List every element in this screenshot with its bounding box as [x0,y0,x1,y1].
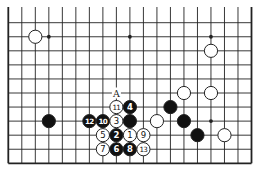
white-stone: 3 [110,115,123,128]
white-stone [204,86,217,99]
move-number-label: 10 [98,117,107,126]
move-number-label: 8 [127,144,133,154]
move-number-label: 12 [85,117,94,126]
point-marker-label: A [112,88,120,99]
black-stone: 4 [123,100,136,113]
star-point-icon [128,35,132,39]
black-stone [42,115,55,128]
white-stone-icon [204,44,217,57]
white-stone [204,44,217,57]
black-stone [164,100,177,113]
white-stone: 7 [96,143,109,156]
white-stone: 11 [110,100,123,113]
star-point-icon [209,35,213,39]
go-board: A 12103114521976813 [0,0,259,171]
move-number-label: 2 [113,130,119,140]
star-point-icon [209,119,213,123]
star-point-icon [47,35,51,39]
move-number-label: 1 [127,130,132,140]
white-stone-icon [204,86,217,99]
black-stone: 6 [110,143,123,156]
white-stone-icon [218,129,231,142]
white-stone [29,30,42,43]
move-number-label: 9 [141,130,146,140]
black-stone: 8 [123,143,136,156]
black-stone: 10 [96,115,109,128]
move-number-label: 4 [127,102,133,112]
black-stone: 2 [110,129,123,142]
white-stone: 5 [96,129,109,142]
move-number-label: 11 [112,103,120,112]
white-stone: 1 [123,129,136,142]
board-markers: A [112,88,121,99]
white-stone [218,129,231,142]
move-number-label: 3 [114,116,119,126]
black-stone: 12 [83,115,96,128]
black-stone-icon [191,129,204,142]
black-stone-icon [42,115,55,128]
black-stone [123,115,136,128]
white-stone [177,86,190,99]
black-stone-icon [177,115,190,128]
white-stone: 13 [137,143,150,156]
move-number-label: 13 [139,145,147,154]
move-number-label: 6 [113,144,119,154]
white-stone [150,115,163,128]
move-number-label: 5 [100,130,105,140]
black-stone [191,129,204,142]
black-stone-icon [164,100,177,113]
white-stone: 9 [137,129,150,142]
black-stone [177,115,190,128]
move-number-label: 7 [100,144,105,154]
white-stone-icon [29,30,42,43]
black-stone-icon [123,115,136,128]
white-stone-icon [177,86,190,99]
white-stone-icon [150,115,163,128]
